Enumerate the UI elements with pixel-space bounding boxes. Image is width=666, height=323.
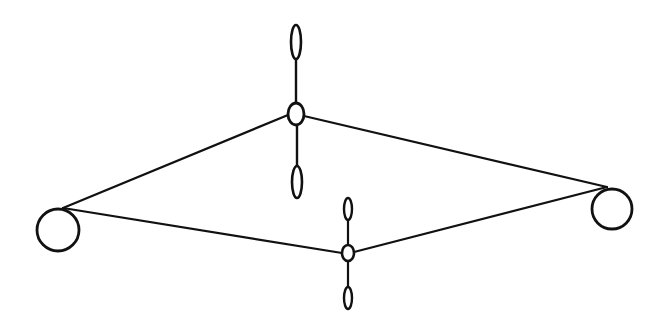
- line-left-to-lower-hub: [63, 208, 342, 253]
- upper-blade-bottom-icon: [292, 166, 302, 198]
- lower-blade-bottom-icon: [344, 287, 352, 309]
- rotor-frame-diagram: [0, 0, 666, 323]
- end-circles: [37, 189, 632, 251]
- connecting-lines: [63, 115, 607, 253]
- upper-hub-icon: [288, 103, 304, 125]
- line-upper-hub-to-right: [304, 116, 607, 187]
- line-lower-hub-to-right: [354, 187, 607, 252]
- upper-blade-top-icon: [291, 25, 301, 59]
- left-end-circle-icon: [37, 209, 79, 251]
- lower-blade-top-icon: [344, 198, 352, 220]
- right-end-circle-icon: [592, 189, 632, 229]
- diagram-canvas: [0, 0, 666, 323]
- upper-rotor: [288, 25, 304, 198]
- line-left-to-upper-hub: [63, 115, 288, 208]
- lower-hub-icon: [342, 245, 354, 261]
- lower-rotor: [342, 198, 354, 309]
